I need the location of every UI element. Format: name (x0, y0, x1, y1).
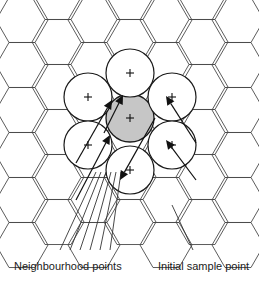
hexagon-cell (212, 87, 259, 132)
hexagon-cell (212, 0, 259, 43)
hexagon-cell (140, 0, 192, 43)
hexagon-cell (0, 177, 48, 222)
leader-initial (172, 205, 193, 250)
hexagon-cell (0, 132, 48, 177)
initial-sample-point-label: Initial sample point (158, 260, 249, 272)
hexagon-cell (0, 42, 48, 87)
hexagon-cell (0, 0, 48, 43)
hexagon-cell (212, 177, 259, 222)
hexagon-cell (212, 132, 259, 177)
leader-neighbour-1 (60, 172, 96, 250)
hexagon-cell (0, 87, 48, 132)
hexagon-cell (104, 0, 156, 20)
hexagon-cell (212, 42, 259, 87)
hexagon-cell (32, 19, 84, 64)
hexagon-cell (32, 0, 84, 20)
neighbourhood-points-label: Neighbourhood points (14, 260, 122, 272)
hexagon-cell (176, 0, 228, 20)
hexagon-cell (176, 19, 228, 64)
hexagon-cell (32, 199, 84, 244)
hexagonal-sampling-diagram: Neighbourhood points Initial sample poin… (0, 0, 259, 283)
diagram-canvas: Neighbourhood points Initial sample poin… (0, 0, 259, 283)
hexagon-cell (68, 0, 120, 43)
hexagon-cell (176, 199, 228, 244)
